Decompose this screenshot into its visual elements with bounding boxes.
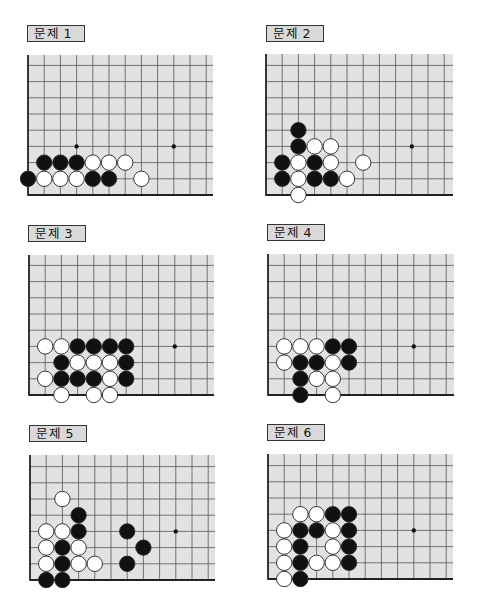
white-stone [277,555,292,570]
black-stone [293,571,308,586]
black-stone [341,555,356,570]
white-stone [309,555,324,570]
black-stone [293,539,308,554]
white-stone [277,571,292,586]
black-stone [293,555,308,570]
problem-6-board [0,0,477,615]
white-stone [309,507,324,522]
white-stone [325,523,340,538]
white-stone [325,539,340,554]
white-stone [325,555,340,570]
black-stone [325,507,340,522]
black-stone [341,507,356,522]
star-point [412,528,416,532]
white-stone [277,523,292,538]
white-stone [277,539,292,554]
black-stone [341,539,356,554]
black-stone [293,523,308,538]
black-stone [309,523,324,538]
white-stone [293,507,308,522]
black-stone [341,523,356,538]
